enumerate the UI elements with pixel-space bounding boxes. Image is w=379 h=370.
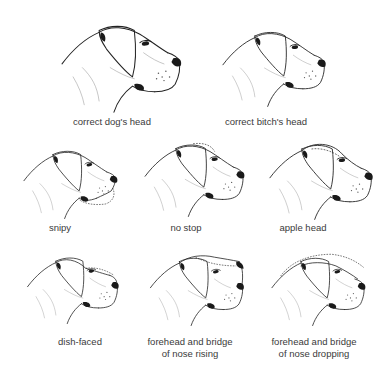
figure-snipy xyxy=(14,140,124,220)
caption-dish-faced: dish-faced xyxy=(58,336,102,348)
figure-nose-dropping xyxy=(258,247,376,327)
caption-line: of nose rising xyxy=(147,348,232,360)
caption-nose-rising: forehead and bridgeof nose rising xyxy=(147,336,232,359)
figure-nose-rising xyxy=(138,247,253,327)
figure-no-stop xyxy=(138,133,248,218)
caption-snipy: snipy xyxy=(49,222,71,234)
figure-correct-dog xyxy=(52,12,187,114)
dog-head-icon xyxy=(138,133,248,218)
caption-line: dish-faced xyxy=(58,336,102,348)
dog-head-icon xyxy=(14,140,124,220)
figure-apple-head xyxy=(262,133,377,221)
caption-nose-dropping: forehead and bridgeof nose dropping xyxy=(271,336,356,359)
figure-dish-faced xyxy=(14,247,129,325)
figure-correct-bitch xyxy=(215,20,330,108)
caption-correct-bitch: correct bitch's head xyxy=(225,116,307,128)
caption-line: apple head xyxy=(279,222,326,234)
caption-apple-head: apple head xyxy=(279,222,326,234)
caption-line: no stop xyxy=(170,222,201,234)
caption-correct-dog: correct dog's head xyxy=(73,116,151,128)
dog-head-icon xyxy=(258,247,376,327)
dog-head-icon xyxy=(14,247,129,325)
dog-head-icon xyxy=(138,247,253,327)
caption-line: snipy xyxy=(49,222,71,234)
caption-line: correct dog's head xyxy=(73,116,151,128)
caption-line: of nose dropping xyxy=(271,348,356,360)
caption-no-stop: no stop xyxy=(170,222,201,234)
dog-head-icon xyxy=(215,20,330,108)
caption-line: correct bitch's head xyxy=(225,116,307,128)
dog-head-icon xyxy=(262,133,377,221)
caption-line: forehead and bridge xyxy=(147,336,232,348)
caption-line: forehead and bridge xyxy=(271,336,356,348)
dog-head-icon xyxy=(52,12,187,114)
